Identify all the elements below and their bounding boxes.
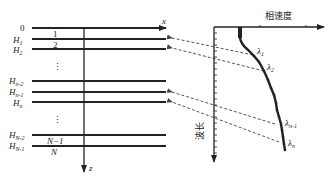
surface-label: 0 [20,23,25,33]
lambda-n-1-label: λn-1 [284,118,297,129]
ellipsis-upper: ⋮ [53,62,62,72]
lambda-1-label: λ1 [256,46,264,57]
layer-label-N: N [50,147,58,157]
dispersion-plot: 相速度 波长 λ1 λ2 λn-1 λn [194,10,324,162]
wavelength-label: 波长 [194,122,205,140]
label-hn-2: Hn-2 [8,76,24,87]
label-hn: Hn [12,98,23,109]
label-hN-1: HN-1 [8,141,25,152]
ellipsis-lower: ⋮ [53,115,62,125]
layer-label-N-1: N−1 [46,136,64,146]
label-hn-1: Hn-1 [8,87,24,98]
phase-velocity-label: 相速度 [265,10,292,21]
layer-model: x 0 H1 H2 Hn-2 Hn-1 Hn HN-2 HN-1 1 2 N−1… [8,16,166,173]
lambda-n-label: λn [287,138,295,149]
map-arrow-lambda-n [172,102,279,142]
lambda-2-label: λ2 [266,62,274,73]
z-axis-label: z [88,163,93,173]
wavelength-axis-ticks [214,33,217,153]
layer-label-1: 1 [53,29,58,39]
x-axis-label: x [161,16,166,26]
label-hN-2: HN-2 [8,130,25,141]
dispersion-curve [240,27,285,150]
layer-label-2: 2 [53,40,58,50]
label-h2: H2 [12,45,23,56]
diagram-canvas: x 0 H1 H2 Hn-2 Hn-1 Hn HN-2 HN-1 1 2 N−1… [0,0,330,182]
